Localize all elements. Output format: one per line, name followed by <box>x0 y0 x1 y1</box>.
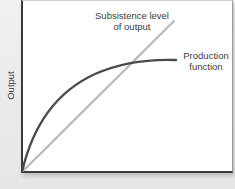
y-axis-label: Output <box>5 66 16 106</box>
diagram-canvas: Subsistence level of output Production f… <box>0 0 235 189</box>
subsistence-label-line1: Subsistence level <box>82 10 182 21</box>
production-function-curve <box>22 60 176 172</box>
production-label-line2: function <box>176 61 235 72</box>
subsistence-label: Subsistence level of output <box>82 10 182 32</box>
production-label-line1: Production <box>176 50 235 61</box>
subsistence-line <box>22 21 174 172</box>
subsistence-label-line2: of output <box>82 21 182 32</box>
x-axis-label <box>100 183 160 189</box>
production-function-label: Production function <box>176 50 235 72</box>
